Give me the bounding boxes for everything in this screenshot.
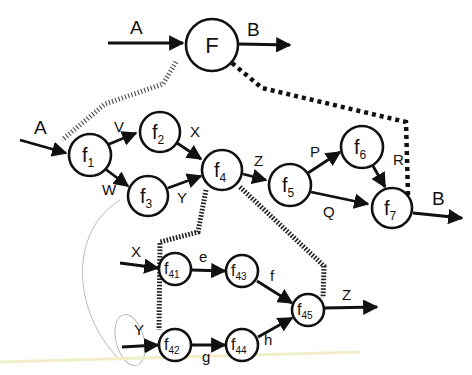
edge-label-Z: Z bbox=[254, 152, 263, 169]
edge-label-Y2: Y bbox=[134, 321, 144, 338]
boundary-F-to-f7 bbox=[232, 63, 408, 195]
level2-nodes: f41 f42 f43 f44 f45 bbox=[159, 253, 324, 361]
edge-X-f41 bbox=[120, 263, 158, 268]
edge-B bbox=[413, 213, 462, 218]
edge-Z-out bbox=[324, 307, 377, 308]
edge-R bbox=[373, 166, 385, 187]
pencil-arc bbox=[83, 200, 121, 360]
edge-label-Q: Q bbox=[323, 203, 335, 220]
node-f7-sub: 7 bbox=[390, 209, 397, 223]
node-f1: f1 bbox=[69, 134, 111, 176]
node-f42-sub: 42 bbox=[168, 345, 180, 356]
node-f4-sub: 4 bbox=[220, 171, 227, 185]
node-f4: f4 bbox=[202, 150, 242, 190]
edge-label-Z2: Z bbox=[342, 286, 351, 303]
node-f2: f2 bbox=[140, 112, 180, 152]
dataflow-diagram: A B F A V W X Y Z P Q R B f1 bbox=[0, 0, 472, 375]
node-f44: f44 bbox=[226, 329, 258, 361]
edge-label-top-A: A bbox=[130, 17, 143, 38]
node-f3: f3 bbox=[128, 176, 168, 216]
edge-label-X: X bbox=[190, 123, 200, 140]
node-f5: f5 bbox=[269, 164, 311, 206]
node-f2-sub: 2 bbox=[158, 133, 165, 147]
edge-label-R: R bbox=[393, 151, 404, 168]
node-f43-sub: 43 bbox=[235, 271, 247, 282]
edge-label-V: V bbox=[114, 118, 124, 135]
edge-Y bbox=[168, 176, 201, 188]
edge-label-W: W bbox=[102, 181, 117, 198]
node-F: F bbox=[186, 19, 238, 71]
edge-label-h: h bbox=[264, 331, 272, 348]
edge-label-g: g bbox=[202, 348, 210, 365]
edge-top-output bbox=[239, 44, 290, 45]
node-F-label: F bbox=[205, 33, 218, 58]
edge-A-f1 bbox=[20, 140, 66, 153]
node-f45-sub: 45 bbox=[301, 310, 313, 321]
edge-label-Y: Y bbox=[177, 189, 187, 206]
edge-label-X2: X bbox=[131, 243, 141, 260]
edge-label-P: P bbox=[310, 143, 320, 160]
node-f6-sub: 6 bbox=[360, 148, 367, 162]
edge-Z bbox=[243, 174, 266, 180]
edge-Y-f42 bbox=[122, 345, 158, 347]
node-f44-sub: 44 bbox=[235, 345, 247, 356]
node-f41-sub: 41 bbox=[168, 269, 180, 280]
edge-label-B: B bbox=[432, 188, 445, 209]
edge-e bbox=[192, 270, 225, 271]
node-f5-sub: 5 bbox=[288, 186, 295, 200]
node-f45: f45 bbox=[292, 294, 324, 326]
edge-Q bbox=[311, 192, 368, 204]
edge-label-e: e bbox=[199, 248, 207, 265]
edge-X bbox=[177, 143, 201, 159]
node-f6: f6 bbox=[341, 126, 383, 168]
edge-label-f: f bbox=[270, 267, 275, 284]
node-f1-sub: 1 bbox=[88, 156, 95, 170]
edge-label-A: A bbox=[34, 117, 47, 138]
node-f41: f41 bbox=[159, 253, 191, 285]
edge-f bbox=[257, 281, 292, 303]
node-f3-sub: 3 bbox=[146, 197, 153, 211]
edge-label-top-B: B bbox=[247, 19, 260, 40]
top-level: A B F bbox=[108, 17, 290, 71]
node-f42: f42 bbox=[159, 329, 191, 361]
node-f43: f43 bbox=[226, 255, 258, 287]
node-f7: f7 bbox=[372, 188, 412, 228]
